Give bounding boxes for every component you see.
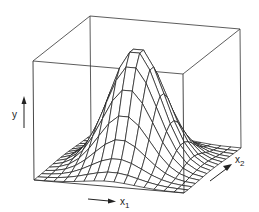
box-edge <box>90 16 91 135</box>
x1-axis-arrow-icon <box>108 199 116 204</box>
x1-axis-arrow-shaft <box>88 199 109 201</box>
box-edge <box>33 16 90 61</box>
x2-axis-arrow-shaft <box>210 169 226 181</box>
x2-label: x2 <box>235 154 245 168</box>
box-edge <box>33 61 183 74</box>
y-axis-label: y <box>12 96 27 128</box>
x1-label: x1 <box>120 196 130 210</box>
box-edge <box>183 29 240 74</box>
gaussian-wireframe-surface <box>34 49 241 193</box>
x1-axis-label: x1 <box>88 196 130 210</box>
box-edge <box>240 29 241 148</box>
y-axis-arrow-icon <box>22 96 27 104</box>
box-edge <box>33 61 34 180</box>
surface-plot: y x1 x2 <box>0 0 259 212</box>
y-label: y <box>12 109 17 120</box>
box-edge <box>90 16 240 29</box>
